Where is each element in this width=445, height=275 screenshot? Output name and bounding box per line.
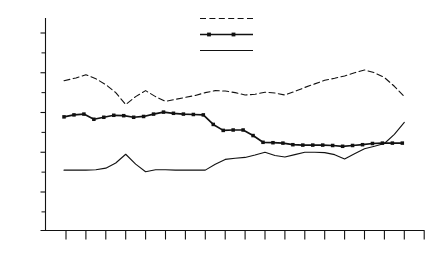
series-marker: [311, 143, 315, 147]
series-marker: [212, 123, 216, 127]
series-line-soviet-union: [64, 70, 404, 105]
series-marker: [301, 143, 305, 147]
series-marker: [162, 110, 166, 114]
series-marker: [202, 113, 206, 117]
series-marker: [142, 115, 146, 119]
series-marker: [102, 116, 106, 120]
series-marker: [132, 116, 136, 120]
series-marker: [291, 143, 295, 147]
series-marker: [82, 112, 86, 116]
series-marker: [92, 118, 96, 122]
legend-marker: [207, 33, 211, 37]
series-marker: [152, 112, 156, 116]
series-marker: [261, 141, 265, 145]
series-marker: [241, 128, 245, 132]
series-marker: [72, 113, 76, 117]
series-marker: [112, 114, 116, 118]
legend-marker: [232, 33, 236, 37]
series-marker: [221, 129, 225, 133]
series-marker: [62, 115, 65, 119]
series-marker: [251, 134, 255, 138]
series-marker: [361, 143, 365, 147]
chart-container: [0, 0, 445, 275]
series-marker: [122, 114, 126, 118]
series-marker: [192, 113, 196, 117]
series-marker: [271, 141, 275, 145]
series-marker: [371, 142, 375, 146]
series-marker: [321, 143, 325, 147]
series-marker: [401, 141, 405, 145]
series-marker: [331, 144, 335, 148]
series-marker: [182, 112, 186, 116]
series-marker: [281, 141, 285, 145]
series-marker: [391, 141, 395, 145]
chart-plot-area: [0, 0, 445, 275]
series-marker: [351, 144, 355, 148]
series-marker: [172, 112, 176, 116]
series-marker: [231, 128, 235, 132]
series-marker: [341, 145, 345, 149]
